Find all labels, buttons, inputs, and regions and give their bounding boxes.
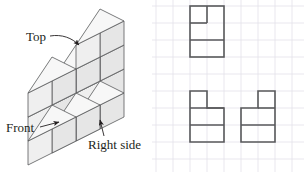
annotation-label-right-side: Right side	[88, 138, 141, 151]
top-arrow-icon	[50, 35, 79, 45]
annotation-label-front: Front	[6, 121, 34, 134]
figure-root: Top Front Right side	[0, 0, 304, 172]
grid-background	[152, 0, 304, 172]
isometric-cube-stack-panel: Top Front Right side	[0, 0, 152, 172]
annotation-label-top: Top	[26, 30, 46, 43]
grid-views-panel: Top Front Right side	[152, 0, 304, 172]
grid-views-svg	[152, 0, 304, 172]
